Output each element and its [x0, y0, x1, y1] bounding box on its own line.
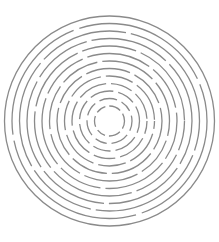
maze-ring-7 [50, 61, 170, 181]
circular-maze [0, 0, 219, 242]
maze-ring-12 [87, 99, 132, 144]
maze-ring-13 [95, 106, 125, 136]
maze-ring-1 [5, 16, 215, 226]
maze-ring-8 [57, 69, 162, 174]
maze-ring-2 [12, 24, 207, 219]
maze-ring-11 [80, 91, 140, 151]
maze-ring-9 [65, 76, 155, 166]
maze-ring-6 [42, 54, 177, 189]
maze-ring-4 [27, 39, 192, 204]
maze-ring-3 [20, 31, 200, 211]
maze-ring-10 [72, 84, 147, 159]
maze-rings [5, 16, 215, 226]
